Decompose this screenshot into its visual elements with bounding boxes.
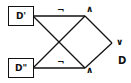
input-label-d-prime: D' — [16, 11, 26, 21]
and-gate-top-label: ∧ — [86, 5, 93, 14]
and-gate-bottom-label: ∧ — [86, 66, 93, 75]
output-label-d: D — [118, 56, 126, 66]
not-gate-top-label: ¬ — [57, 6, 65, 15]
or-gate-label: ∨ — [116, 38, 123, 47]
input-box-d-double-prime: D" — [8, 58, 34, 78]
input-label-d-double-prime: D" — [15, 63, 27, 73]
wire-top-to-or — [85, 16, 112, 43]
input-box-d-prime: D' — [8, 6, 34, 26]
not-gate-bottom-label: ¬ — [57, 58, 65, 67]
